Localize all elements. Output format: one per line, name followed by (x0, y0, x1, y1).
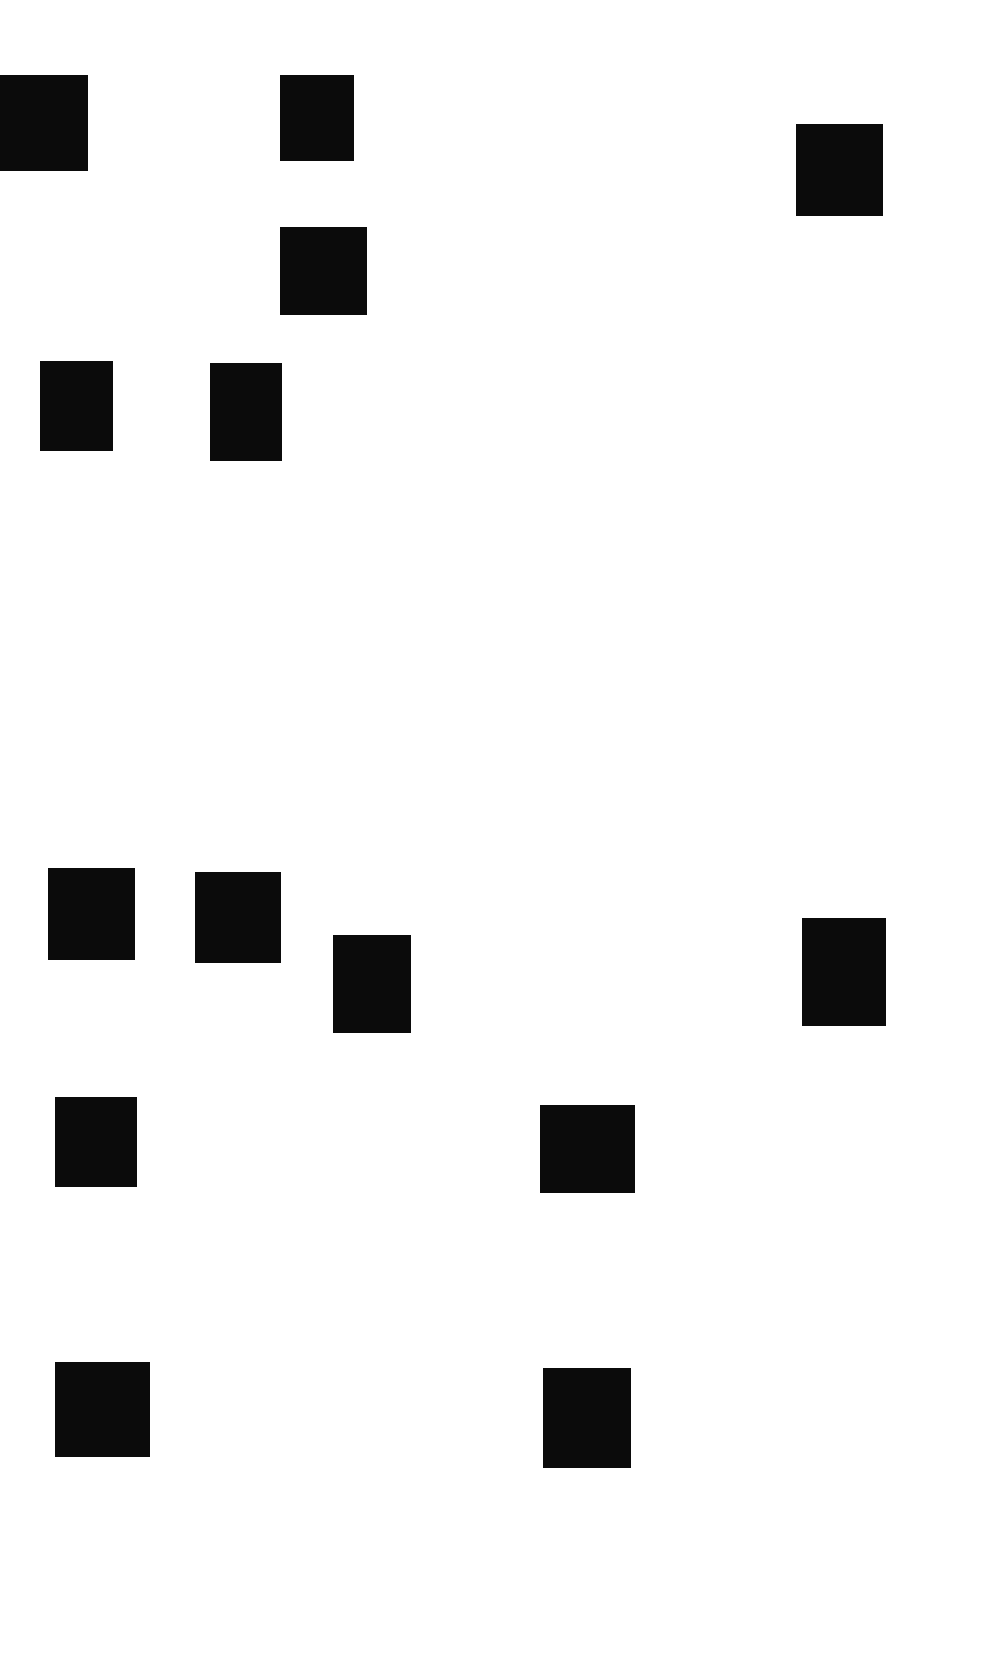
redaction-block (55, 1362, 150, 1457)
redaction-block (40, 361, 113, 451)
redaction-block (280, 75, 354, 161)
redaction-block (796, 124, 883, 216)
redaction-block (210, 363, 282, 461)
redaction-block (195, 872, 281, 963)
redaction-block (0, 75, 88, 171)
redaction-block (540, 1105, 635, 1193)
redaction-block (280, 227, 367, 315)
redaction-block (55, 1097, 137, 1187)
redaction-block (543, 1368, 631, 1468)
redaction-block (333, 935, 411, 1033)
redacted-document-page (0, 0, 987, 1674)
redaction-block (48, 868, 135, 960)
redaction-block (802, 918, 886, 1026)
